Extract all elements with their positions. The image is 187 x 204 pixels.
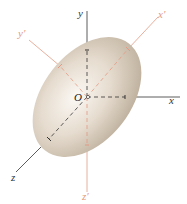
y-prime-axis [29, 40, 60, 66]
y-prime-axis-label: y′ [17, 27, 26, 39]
z-axis-label: z [10, 171, 16, 183]
y-axis-label: y [77, 7, 83, 19]
ellipsoid-diagram: O y x z x′ y′ z′ [0, 0, 187, 204]
x-prime-axis [128, 17, 158, 49]
x-axis-label: x [168, 94, 174, 106]
origin-label: O [74, 91, 82, 103]
z-prime-axis-label: z′ [81, 190, 89, 202]
x-prime-axis-label: x′ [157, 8, 166, 20]
origin-point [86, 95, 89, 98]
